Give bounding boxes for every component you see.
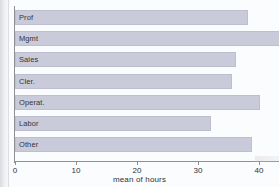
scanned-page-edge-line <box>8 0 9 187</box>
bar-row: Prof <box>15 10 279 25</box>
x-axis-tick <box>198 161 199 165</box>
bar <box>15 95 260 110</box>
bar-category-label: Other <box>19 138 38 151</box>
bar <box>15 74 232 89</box>
x-axis-tick-label: 20 <box>133 166 142 175</box>
bar-category-label: Prof <box>19 11 33 24</box>
bar <box>15 52 236 67</box>
plot-area: ProfMgmtSalesCler.Operat.LaborOther <box>15 6 279 161</box>
bar <box>15 116 211 131</box>
x-axis-tick <box>259 161 260 165</box>
bar-category-label: Labor <box>19 117 39 130</box>
x-axis-tick <box>76 161 77 165</box>
bar-chart-figure: ProfMgmtSalesCler.Operat.LaborOther 0102… <box>0 0 279 187</box>
bar-category-label: Cler. <box>19 75 35 88</box>
x-axis-tick-label: 0 <box>13 166 17 175</box>
x-axis-tick <box>15 161 16 165</box>
bar-category-label: Operat. <box>19 96 45 109</box>
x-axis-tick-label: 30 <box>194 166 203 175</box>
bar <box>15 31 279 46</box>
bar-row: Other <box>15 137 279 152</box>
x-axis-tick <box>137 161 138 165</box>
bar-row: Sales <box>15 52 279 67</box>
bar <box>15 10 248 25</box>
x-axis-tick-label: 10 <box>72 166 81 175</box>
bar-row: Cler. <box>15 74 279 89</box>
x-axis-title: mean of hours <box>0 175 279 184</box>
bar-row: Operat. <box>15 95 279 110</box>
bar-row: Labor <box>15 116 279 131</box>
bar-category-label: Sales <box>19 53 38 66</box>
value-axis-line <box>14 161 279 162</box>
bar-category-label: Mgmt <box>19 32 38 45</box>
bar <box>15 137 252 152</box>
bar-row: Mgmt <box>15 31 279 46</box>
x-axis-tick-label: 40 <box>255 166 264 175</box>
